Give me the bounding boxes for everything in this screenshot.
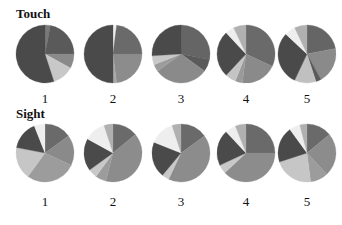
pie-slice [113, 25, 142, 54]
sight-pie-2 [83, 123, 143, 183]
touch-label-3: 3 [171, 91, 191, 107]
touch-pie-2 [83, 24, 143, 84]
row-title-sight: Sight [16, 106, 45, 122]
pie-slice [246, 124, 275, 153]
touch-pie-3 [151, 24, 211, 84]
sight-pie-5 [277, 123, 337, 183]
row-title-touch: Touch [16, 6, 50, 22]
sight-label-2: 2 [103, 194, 123, 210]
touch-label-2: 2 [103, 91, 123, 107]
pie-slice [152, 25, 181, 56]
touch-pie-5 [277, 24, 337, 84]
sight-pie-1 [15, 123, 75, 183]
pie-slice [181, 25, 210, 59]
touch-label-4: 4 [236, 91, 256, 107]
sight-pie-4 [216, 123, 276, 183]
sight-label-4: 4 [236, 194, 256, 210]
sight-label-5: 5 [297, 194, 317, 210]
touch-pie-1 [15, 24, 75, 84]
sight-pie-3 [151, 123, 211, 183]
sight-label-3: 3 [171, 194, 191, 210]
pie-slice [84, 25, 113, 83]
sight-label-1: 1 [35, 194, 55, 210]
pie-slice [113, 54, 142, 83]
touch-pie-4 [216, 24, 276, 84]
touch-label-1: 1 [35, 91, 55, 107]
touch-label-5: 5 [297, 91, 317, 107]
